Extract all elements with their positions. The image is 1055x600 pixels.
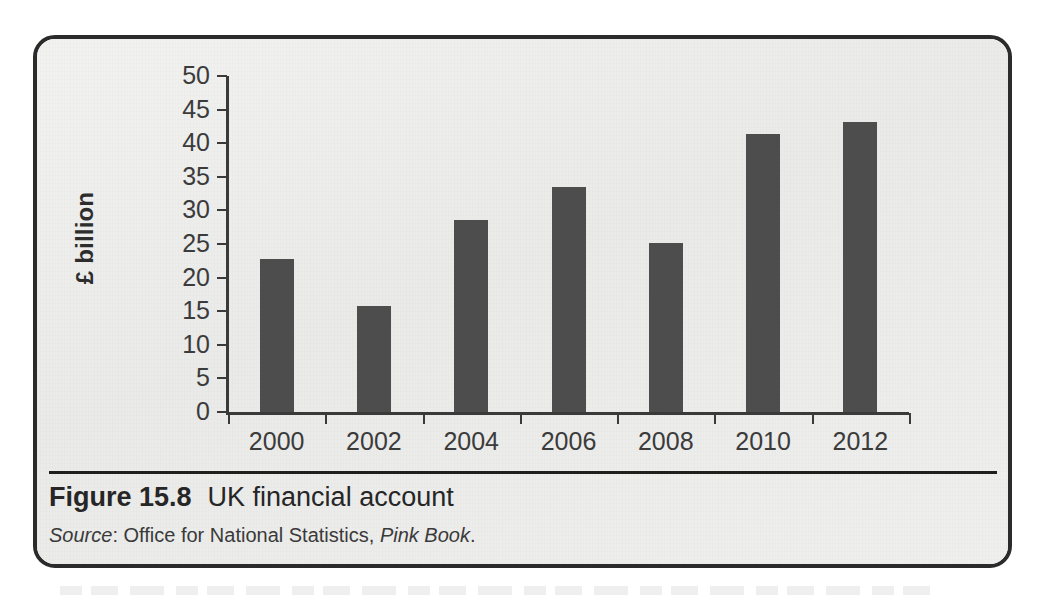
y-axis-tick <box>217 310 227 312</box>
x-axis-tick-label: 2006 <box>514 429 624 454</box>
y-axis-tick-label: 20 <box>152 265 210 290</box>
x-axis-tick <box>423 413 425 424</box>
caption-divider <box>49 471 997 474</box>
y-axis-tick-label: 50 <box>152 63 210 88</box>
x-axis-tick-label: 2012 <box>805 429 915 454</box>
x-axis-tick <box>714 413 716 424</box>
y-axis-tick-label: 15 <box>152 298 210 323</box>
y-axis-tick <box>217 75 227 77</box>
figure-caption: Figure 15.8UK financial account <box>49 482 454 513</box>
y-axis-tick <box>217 142 227 144</box>
y-axis-label: £ billion <box>71 168 99 308</box>
x-axis-tick <box>812 413 814 424</box>
source-publication: Pink Book <box>380 524 470 546</box>
x-axis-tick <box>617 413 619 424</box>
source-organisation: Office for National Statistics, <box>124 524 380 546</box>
x-axis-tick-label: 2010 <box>708 429 818 454</box>
x-axis-tick-label: 2000 <box>222 429 332 454</box>
y-axis-tick <box>217 109 227 111</box>
x-axis-tick-label: 2008 <box>611 429 721 454</box>
figure-frame: £ billion 05101520253035404550 200020022… <box>33 35 1012 568</box>
x-axis-tick <box>228 413 230 424</box>
y-axis-tick <box>217 243 227 245</box>
x-axis-tick <box>325 413 327 424</box>
source-terminator: . <box>470 524 476 546</box>
x-axis-tick <box>909 413 911 424</box>
y-axis-tick <box>217 411 227 413</box>
y-axis-line <box>226 76 229 414</box>
figure-title: UK financial account <box>208 482 454 512</box>
bar <box>649 243 683 412</box>
source-separator: : <box>112 524 123 546</box>
figure-source: Source: Office for National Statistics, … <box>49 524 476 547</box>
bar <box>357 306 391 412</box>
y-axis-tick-label: 30 <box>152 197 210 222</box>
y-axis-tick-label: 35 <box>152 164 210 189</box>
chart-plot-area: £ billion 05101520253035404550 200020022… <box>37 39 1012 459</box>
x-axis-tick-label: 2004 <box>416 429 526 454</box>
y-axis-tick-label: 5 <box>152 365 210 390</box>
y-axis-tick <box>217 209 227 211</box>
y-axis-tick <box>217 344 227 346</box>
y-axis-tick <box>217 277 227 279</box>
y-axis-tick-label: 0 <box>152 399 210 424</box>
bar <box>746 134 780 412</box>
y-axis-tick-label: 25 <box>152 231 210 256</box>
y-axis-tick-label: 45 <box>152 97 210 122</box>
y-axis-tick-label: 40 <box>152 130 210 155</box>
bar <box>843 122 877 412</box>
source-prefix: Source <box>49 524 112 546</box>
y-axis-tick <box>217 176 227 178</box>
x-axis-line <box>226 412 909 415</box>
y-axis-tick-label: 10 <box>152 332 210 357</box>
x-axis-tick-label: 2002 <box>319 429 429 454</box>
bar <box>260 259 294 412</box>
y-axis-tick <box>217 377 227 379</box>
page-bleed-text <box>60 586 940 595</box>
x-axis-tick <box>520 413 522 424</box>
bar <box>454 220 488 412</box>
figure-number: Figure 15.8 <box>49 482 192 512</box>
bar <box>552 187 586 412</box>
